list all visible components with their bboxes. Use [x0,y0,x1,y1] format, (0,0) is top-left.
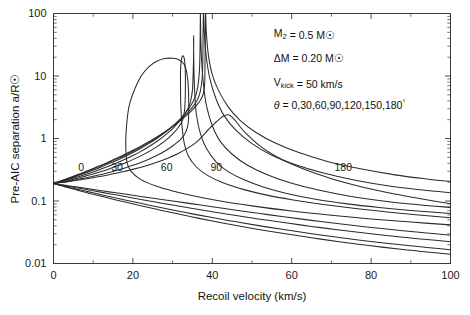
curve-label-90: 90 [210,161,222,173]
annotation-m2: M2 = 0.5 M☉ [274,27,335,41]
annotation-delta-m: ΔM = 0.20 M☉ [274,52,344,64]
y-tick-label: 1 [40,132,46,144]
x-tick-label: 0 [50,269,56,281]
y-axis-title: Pre-AIC separation a/R☉ [9,74,21,204]
y-tick-label: 0.1 [31,195,46,207]
x-tick-label: 60 [286,269,298,281]
curve-label-0: 0 [78,161,84,173]
curve-label-60: 60 [161,161,173,173]
curve-theta-90 [54,36,451,214]
x-tick-label: 80 [365,269,377,281]
figure-container: 0204060801000.010.11101000306090180Recoi… [0,0,470,315]
x-axis-title: Recoil velocity (km/s) [198,290,307,302]
x-tick-label: 40 [206,269,218,281]
curve-label-180: 180 [335,161,353,173]
chart-svg: 0204060801000.010.11101000306090180Recoi… [0,0,470,315]
x-tick-label: 100 [441,269,459,281]
x-tick-label: 20 [127,269,139,281]
annotation-vkick: Vkick = 50 km/s [274,76,343,90]
y-tick-label: 100 [28,7,46,19]
annotation-theta: θ = 0,30,60,90,120,150,180° [274,98,406,111]
curve-theta-0 [54,115,451,204]
curve-theta-30 [54,58,451,225]
curve-label-30: 30 [111,161,123,173]
y-tick-label: 10 [34,70,46,82]
y-tick-label: 0.01 [25,257,46,269]
